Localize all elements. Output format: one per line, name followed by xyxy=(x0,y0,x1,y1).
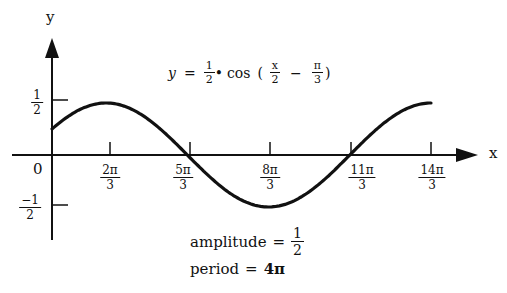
eq-arg2-den: 3 xyxy=(314,73,321,85)
eq-arg2: π 3 xyxy=(312,60,323,85)
x-tick-num: 2π xyxy=(100,164,120,178)
amplitude-note: amplitude = 1 2 xyxy=(190,226,304,257)
eq-lhs: y xyxy=(168,65,176,81)
eq-coefficient: 1 2 xyxy=(204,60,215,85)
x-tick-num: 14π xyxy=(418,164,445,178)
period-label: period xyxy=(190,260,239,278)
eq-equals: = xyxy=(184,65,196,81)
y-axis-arrow-icon xyxy=(45,38,59,58)
eq-open-paren: ( xyxy=(257,65,262,81)
eq-arg1-den: 2 xyxy=(271,73,278,85)
period-value: 4π xyxy=(264,260,285,278)
eq-minus: − xyxy=(290,65,302,81)
y-tick-den: 2 xyxy=(26,208,34,221)
equation: y = 1 2 • cos ( x 2 − π 3 ) xyxy=(168,60,331,85)
period-equals: = xyxy=(245,260,258,278)
eq-coef-den: 2 xyxy=(206,73,213,85)
amplitude-label: amplitude xyxy=(190,233,267,251)
eq-coef-num: 1 xyxy=(204,60,215,73)
amplitude-den: 2 xyxy=(293,242,302,257)
amplitude-equals: = xyxy=(273,233,286,251)
y-tick-label-half: 1 2 xyxy=(31,89,43,116)
x-tick-label-8pi3: 8π 3 xyxy=(260,164,280,191)
y-tick-label-neg-half: −1 2 xyxy=(19,194,41,221)
eq-func: cos xyxy=(227,65,250,81)
x-tick-label-2pi3: 2π 3 xyxy=(100,164,120,191)
origin-label: 0 xyxy=(33,160,43,178)
y-axis-label: y xyxy=(46,8,54,26)
y-tick-den: 2 xyxy=(33,103,41,116)
x-axis-arrow-icon xyxy=(456,148,478,162)
x-tick-den: 3 xyxy=(266,178,274,191)
eq-arg1: x 2 xyxy=(270,60,280,85)
eq-arg2-num: π xyxy=(312,60,323,73)
period-note: period = 4π xyxy=(190,260,285,278)
y-tick-num: 1 xyxy=(31,89,43,103)
eq-close-paren: ) xyxy=(325,65,330,81)
x-tick-num: 11π xyxy=(348,164,375,178)
x-tick-label-5pi3: 5π 3 xyxy=(173,164,193,191)
x-tick-den: 3 xyxy=(179,178,187,191)
eq-arg1-num: x xyxy=(270,60,280,73)
amplitude-num: 1 xyxy=(291,226,304,242)
amplitude-value: 1 2 xyxy=(291,226,304,257)
x-tick-den: 3 xyxy=(428,178,436,191)
y-tick-num: −1 xyxy=(19,194,41,208)
x-tick-label-11pi3: 11π 3 xyxy=(348,164,375,191)
x-tick-num: 8π xyxy=(260,164,280,178)
eq-dot: • xyxy=(215,65,223,81)
x-tick-den: 3 xyxy=(106,178,114,191)
x-axis-label: x xyxy=(489,144,497,162)
x-tick-num: 5π xyxy=(173,164,193,178)
x-tick-label-14pi3: 14π 3 xyxy=(418,164,445,191)
x-tick-den: 3 xyxy=(358,178,366,191)
